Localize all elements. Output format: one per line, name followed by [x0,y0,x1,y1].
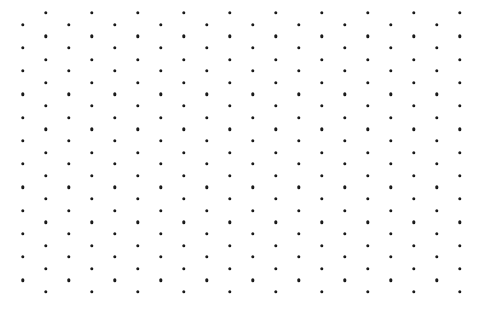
pattern-dot [159,232,162,235]
pattern-dot [274,128,277,131]
pattern-dot [297,255,300,258]
pattern-dot [205,69,208,72]
pattern-dot [435,69,438,72]
pattern-dot [182,244,185,247]
pattern-dot [159,279,162,282]
pattern-dot [435,139,438,142]
pattern-dot [389,232,392,235]
pattern-dot [412,267,415,270]
pattern-dot [297,139,300,142]
pattern-dot [113,279,116,282]
pattern-dot [44,197,47,200]
pattern-dot [343,23,346,26]
pattern-dot [90,221,93,224]
pattern-dot [412,151,415,154]
pattern-dot [458,244,461,247]
pattern-dot [21,23,24,26]
pattern-dot [44,221,47,224]
pattern-dot [90,151,93,154]
pattern-dot [67,209,70,212]
pattern-dot [90,35,93,38]
pattern-dot [389,69,392,72]
pattern-dot [182,197,185,200]
pattern-dot [44,267,47,270]
pattern-dot [113,139,116,142]
pattern-dot [136,35,139,38]
pattern-dot [67,139,70,142]
pattern-dot [251,116,254,119]
pattern-dot [435,23,438,26]
pattern-dot [228,290,231,293]
pattern-dot [412,11,415,14]
pattern-dot [21,116,24,119]
pattern-dot [389,209,392,212]
pattern-dot [458,151,461,154]
pattern-dot [67,116,70,119]
pattern-dot [458,35,461,38]
pattern-dot [297,232,300,235]
pattern-dot [205,186,208,189]
pattern-dot [343,162,346,165]
pattern-dot [389,255,392,258]
pattern-dot [44,104,47,107]
pattern-dot [366,104,369,107]
pattern-dot [136,58,139,61]
pattern-dot [228,58,231,61]
pattern-dot [251,23,254,26]
pattern-dot [136,104,139,107]
pattern-dot [297,23,300,26]
pattern-dot [182,81,185,84]
pattern-dot [366,244,369,247]
pattern-dot [159,209,162,212]
pattern-dot [366,174,369,177]
pattern-dot [458,58,461,61]
pattern-dot [90,11,93,14]
pattern-dot [67,162,70,165]
pattern-dot [458,290,461,293]
pattern-dot [44,35,47,38]
pattern-dot [90,244,93,247]
pattern-dot [136,197,139,200]
pattern-dot [435,279,438,282]
pattern-dot [205,255,208,258]
pattern-dot [458,174,461,177]
pattern-dot [389,93,392,96]
pattern-dot [274,151,277,154]
pattern-dot [297,93,300,96]
pattern-dot [320,197,323,200]
pattern-dot [366,221,369,224]
pattern-dot [274,174,277,177]
pattern-dot [343,232,346,235]
pattern-dot [297,116,300,119]
pattern-dot [159,255,162,258]
pattern-dot [458,221,461,224]
pattern-dot [90,81,93,84]
pattern-dot [44,11,47,14]
pattern-dot [412,128,415,131]
pattern-dot [90,174,93,177]
pattern-dot [412,35,415,38]
pattern-dot [44,58,47,61]
pattern-dot [343,209,346,212]
pattern-dot [251,255,254,258]
pattern-dot [67,279,70,282]
pattern-dot [251,279,254,282]
pattern-dot [228,128,231,131]
pattern-dot [90,128,93,131]
pattern-dot [343,139,346,142]
pattern-dot [320,104,323,107]
pattern-dot [389,46,392,49]
pattern-dot [458,104,461,107]
pattern-dot [343,255,346,258]
pattern-dot [159,69,162,72]
pattern-dot [159,93,162,96]
pattern-dot [366,35,369,38]
pattern-dot [251,162,254,165]
pattern-dot [320,151,323,154]
pattern-dot [320,174,323,177]
pattern-dot [412,81,415,84]
pattern-dot [159,139,162,142]
pattern-dot [251,209,254,212]
pattern-dot [67,255,70,258]
pattern-dot [113,232,116,235]
